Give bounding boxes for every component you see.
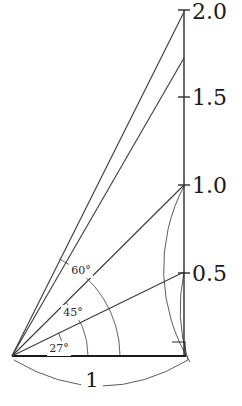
axis-tick-label-2-0: 2.0 (192, 0, 227, 24)
angle-label-45: 45° (63, 306, 83, 319)
ray-27-degrees (12, 272, 184, 356)
radius-arc-to-1-0 (164, 186, 190, 362)
angle-label-60: 60° (71, 264, 91, 277)
axis-tick-label-0-5: 0.5 (192, 261, 227, 286)
axis-tick-label-1-0: 1.0 (192, 173, 227, 198)
baseline-length-label: 1 (85, 368, 98, 392)
ray-steepest (12, 12, 184, 356)
angle-label-27: 27° (49, 342, 69, 355)
right-angle-marker (172, 342, 185, 355)
ray-45-degrees (12, 185, 184, 356)
axis-tick-label-1-5: 1.5 (192, 85, 227, 110)
figure-canvas: 2.01.51.00.5127°45°60° (0, 0, 242, 406)
ray-60-degrees (12, 58, 184, 356)
trig-figure: 2.01.51.00.5127°45°60° (0, 0, 242, 406)
